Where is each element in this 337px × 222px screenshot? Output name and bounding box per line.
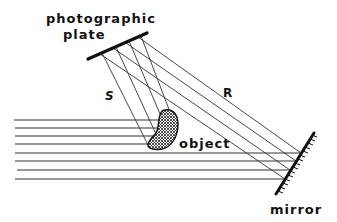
object-wave-label: S (105, 90, 115, 102)
mirror-label: mirror (270, 203, 322, 216)
reference-wave-label: R (223, 87, 233, 99)
hologram-diagram: photographic plate S R object mirror (0, 0, 337, 222)
mirror (276, 133, 317, 194)
object-shape (148, 110, 178, 150)
reference-wave-r (100, 37, 301, 179)
plate-label-line1: photographic (46, 12, 156, 25)
plate-label-line2: plate (63, 28, 106, 41)
object-label: object (179, 137, 230, 150)
